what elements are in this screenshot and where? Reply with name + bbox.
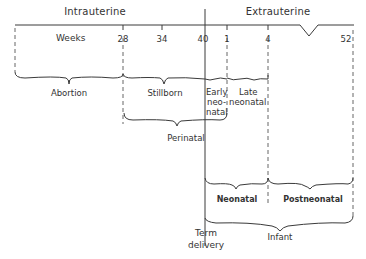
- neonatal-brace: [205, 178, 268, 189]
- diagram-lines: [0, 0, 366, 259]
- tick-label-28: 28: [118, 35, 129, 44]
- neonatal-label: Neonatal: [217, 196, 258, 204]
- intrauterine-header: Intrauterine: [64, 7, 126, 17]
- infant-label: Infant: [268, 233, 293, 242]
- late-neonatal-label-1: Late: [239, 88, 258, 97]
- tick-label-40: 40: [198, 35, 209, 44]
- abortion-label: Abortion: [51, 89, 87, 98]
- term-delivery-label-1: Term: [195, 229, 217, 238]
- tick-label-4: 4: [265, 35, 270, 44]
- early-neonatal-brace: [205, 78, 227, 80]
- stillborn-brace: [123, 74, 205, 84]
- postneonatal-label: Postneonatal: [283, 196, 343, 204]
- tick-label-1: 1: [224, 35, 229, 44]
- weeks-label: Weeks: [56, 34, 85, 43]
- early-neonatal-label-3: natal: [206, 108, 228, 117]
- postneonatal-brace: [268, 178, 353, 189]
- stillborn-label: Stillborn: [147, 89, 182, 98]
- perinatal-label: Perinatal: [167, 134, 204, 143]
- term-delivery-label-2: delivery: [188, 241, 224, 250]
- late-neonatal-label-2: neonatal: [229, 98, 266, 107]
- tick-label-52: 52: [341, 35, 352, 44]
- early-neonatal-label-1: Early: [206, 88, 227, 97]
- early-neonatal-label-2: neo-: [207, 98, 226, 107]
- abortion-brace: [15, 72, 123, 84]
- late-neonatal-brace: [227, 75, 268, 80]
- infant-brace: [205, 216, 353, 231]
- tick-label-34: 34: [157, 35, 168, 44]
- extrauterine-header: Extrauterine: [246, 7, 311, 17]
